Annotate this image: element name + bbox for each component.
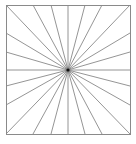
center-point: [66, 68, 69, 71]
starburst-diagram: [0, 0, 136, 144]
